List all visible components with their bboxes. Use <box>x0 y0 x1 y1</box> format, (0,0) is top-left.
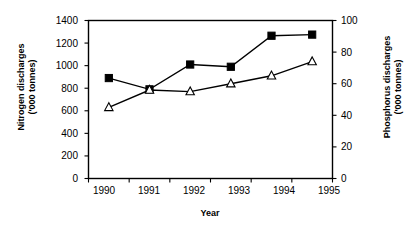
data-point-0-1995 <box>309 31 316 38</box>
data-point-0-1992 <box>187 61 194 68</box>
data-point-0-1990 <box>105 74 112 81</box>
plot-area <box>0 0 416 232</box>
series-line-1 <box>109 62 312 108</box>
data-point-1-1995 <box>308 57 316 65</box>
series-lines <box>109 35 312 108</box>
axis-frame <box>89 21 333 179</box>
data-point-0-1993 <box>227 63 234 70</box>
series-line-0 <box>109 35 312 90</box>
chart-container: Nitrogen discharges ('000 tonnes) Phosph… <box>0 0 416 232</box>
data-point-0-1994 <box>268 32 275 39</box>
plot-border <box>89 21 333 179</box>
